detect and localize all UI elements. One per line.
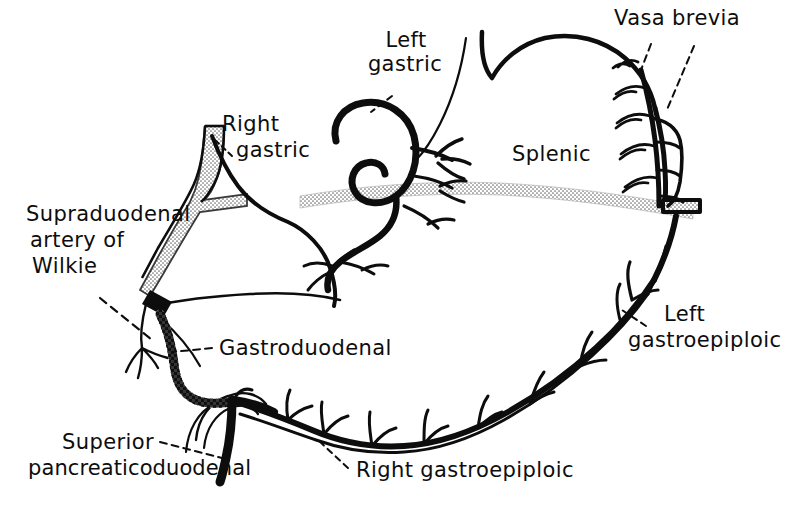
label-vasa-brevia: Vasa brevia	[614, 6, 740, 30]
label-supraduodenal-line1: Supraduodenal	[26, 202, 190, 226]
label-right-gastroepiploic: Right gastroepiploic	[356, 458, 574, 482]
leader-line-vasa-brevia-2	[666, 46, 694, 112]
label-left-gastroepiploic-line2: gastroepiploic	[628, 328, 781, 352]
label-right-gastric-line1: Right	[222, 112, 279, 136]
label-supraduodenal-line2: artery of	[30, 228, 124, 252]
leader-line-vasa-brevia-1	[641, 44, 651, 70]
label-superior-pancreaticoduodenal-line1: Superior	[62, 430, 154, 454]
anatomical-figure: Vasa brevia Left gastric Right gastric S…	[0, 0, 804, 515]
label-left-gastric-line2: gastric	[355, 52, 455, 76]
label-superior-pancreaticoduodenal-line2: pancreaticoduodenal	[28, 456, 251, 480]
vasa-brevia	[613, 60, 683, 206]
label-splenic: Splenic	[512, 142, 591, 166]
label-supraduodenal-line3: Wilkie	[32, 254, 97, 278]
label-left-gastroepiploic-line1: Left	[664, 302, 705, 326]
label-gastroduodenal: Gastroduodenal	[219, 336, 392, 360]
label-left-gastric-line1: Left	[360, 28, 452, 52]
label-right-gastric-line2: gastric	[236, 138, 310, 162]
right-gastroepiploic-artery	[236, 280, 654, 453]
